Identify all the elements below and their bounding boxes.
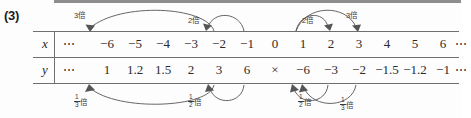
cell-x-0: ⋯ (55, 31, 83, 57)
cell-y-12: −1.2 (399, 57, 431, 83)
bai-suffix: 倍 (194, 98, 201, 107)
annotation-top-left-3bai: 3倍 (74, 12, 85, 20)
cell-x-5: −2 (205, 31, 233, 57)
arc-top-right-2bai (296, 15, 328, 31)
top-arrow-arcs (0, 0, 461, 34)
annotation-bottom-right-half: 1 2 倍 (298, 94, 311, 109)
cell-x-4: −3 (177, 31, 205, 57)
fraction-one-half: 1 2 (188, 94, 194, 109)
annotation-bottom-left-half: 1 2 倍 (188, 94, 201, 109)
cell-x-2: −5 (121, 31, 149, 57)
table-row-y: y ⋯ 1 1.2 1.5 2 3 6 × −6 −3 −2 −1.5 −1.2… (33, 57, 459, 83)
cell-y-4: 2 (177, 57, 205, 83)
annotation-top-right-3bai: 3倍 (346, 12, 357, 20)
arc-bottom-left-half (210, 85, 244, 101)
cell-y-9: −3 (317, 57, 345, 83)
row-x-cells: ⋯ −6 −5 −4 −3 −2 −1 0 1 2 3 4 5 6 ⋯ (55, 31, 459, 57)
arc-top-left-2bai (208, 15, 244, 31)
row-y-cells: ⋯ 1 1.2 1.5 2 3 6 × −6 −3 −2 −1.5 −1.2 −… (55, 57, 459, 83)
fraction-one-third: 1 3 (74, 94, 80, 109)
cell-x-8: 1 (289, 31, 317, 57)
cell-x-7: 0 (261, 31, 289, 57)
annotation-top-left-2bai: 2倍 (188, 17, 199, 25)
arrowhead-bottom-right-third (299, 84, 308, 93)
value-table: x ⋯ −6 −5 −4 −3 −2 −1 0 1 2 3 4 5 6 ⋯ y (33, 31, 459, 83)
cell-y-3: 1.5 (149, 57, 177, 83)
arrowhead-top-right-2bai (324, 24, 333, 32)
arc-bottom-right-half (294, 85, 328, 101)
cell-y-0: ⋯ (55, 57, 83, 83)
problem-number-label: (3) (4, 8, 19, 23)
arrowhead-bottom-right-half (290, 84, 299, 93)
arrowhead-bottom-left-third (85, 84, 95, 92)
cell-x-3: −4 (149, 31, 177, 57)
cell-y-14: ⋯ (451, 57, 471, 83)
row-label-x: x (37, 31, 53, 57)
bottom-annotation-layer: 1 3 倍 1 2 倍 1 2 倍 1 3 倍 (0, 82, 461, 118)
arc-top-left-3bai (90, 10, 214, 31)
cell-x-6: −1 (233, 31, 261, 57)
cell-y-8: −6 (289, 57, 317, 83)
bottom-arrow-arcs (0, 82, 461, 118)
arrowhead-bottom-left-half (205, 84, 214, 92)
table-rule-bottom (33, 83, 459, 84)
cell-y-2: 1.2 (121, 57, 149, 83)
row-label-y: y (37, 57, 53, 83)
cell-x-10: 3 (345, 31, 373, 57)
bai-suffix: 倍 (80, 98, 87, 107)
arc-bottom-left-third (90, 85, 214, 104)
top-annotation-layer: 3倍 2倍 2倍 3倍 (0, 0, 461, 34)
cell-y-10: −2 (345, 57, 373, 83)
cell-x-11: 4 (373, 31, 401, 57)
cell-x-12: 5 (401, 31, 429, 57)
annotation-bottom-left-third: 1 3 倍 (74, 94, 87, 109)
bai-suffix: 倍 (346, 101, 353, 110)
arrowhead-top-left-2bai (203, 24, 212, 32)
cell-y-1: 1 (93, 57, 121, 83)
arc-bottom-right-third (304, 85, 356, 103)
fraction-one-half: 1 2 (298, 94, 304, 109)
top-edge-strip (54, 0, 461, 3)
annotation-bottom-right-third: 1 3 倍 (340, 97, 353, 112)
fraction-one-third: 1 3 (340, 97, 346, 112)
cell-x-9: 2 (317, 31, 345, 57)
arc-top-right-3bai (296, 10, 356, 31)
cell-x-14: ⋯ (451, 31, 471, 57)
bai-suffix: 倍 (304, 98, 311, 107)
table-row-x: x ⋯ −6 −5 −4 −3 −2 −1 0 1 2 3 4 5 6 ⋯ (33, 31, 459, 57)
annotation-top-right-2bai: 2倍 (302, 17, 313, 25)
cell-y-5: 3 (205, 57, 233, 83)
cell-y-7: × (261, 57, 289, 83)
cell-x-1: −6 (93, 31, 121, 57)
cell-y-6: 6 (233, 57, 261, 83)
